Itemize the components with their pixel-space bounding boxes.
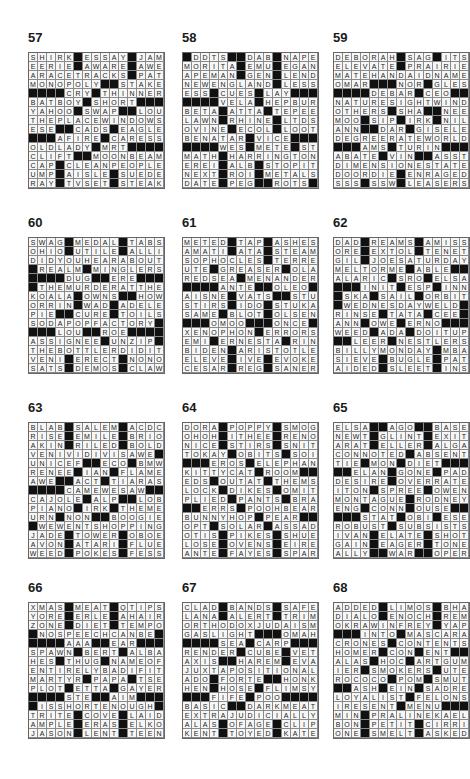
letter-cell: U	[74, 256, 83, 265]
letter-cell: O	[300, 283, 309, 292]
letter-cell: M	[442, 675, 451, 684]
letter-cell: U	[228, 477, 237, 486]
black-square	[282, 450, 291, 459]
letter-cell: L	[146, 125, 155, 134]
letter-cell: F	[65, 134, 74, 143]
letter-cell: A	[38, 161, 47, 170]
letter-cell: E	[237, 125, 246, 134]
letter-cell: A	[183, 247, 192, 256]
letter-cell: R	[361, 274, 370, 283]
letter-cell: A	[219, 283, 228, 292]
letter-cell: S	[424, 522, 433, 531]
letter-cell: O	[388, 666, 397, 675]
letter-cell: W	[370, 621, 379, 630]
letter-cell: E	[388, 319, 397, 328]
black-square	[334, 513, 343, 522]
letter-cell: E	[65, 71, 74, 80]
letter-cell: I	[155, 247, 164, 256]
letter-cell: I	[424, 513, 433, 522]
letter-cell: I	[237, 301, 246, 310]
letter-cell: T	[309, 161, 318, 170]
letter-cell: W	[201, 80, 210, 89]
letter-cell: O	[29, 301, 38, 310]
letter-cell: I	[38, 310, 47, 319]
letter-cell: A	[192, 152, 201, 161]
letter-cell: F	[155, 657, 164, 666]
letter-cell: O	[155, 621, 164, 630]
letter-cell: E	[334, 423, 343, 432]
black-square	[388, 107, 397, 116]
letter-cell: O	[334, 621, 343, 630]
letter-cell: O	[56, 107, 65, 116]
letter-cell: P	[246, 513, 255, 522]
letter-cell: N	[343, 729, 352, 738]
letter-cell: I	[246, 170, 255, 179]
letter-cell: E	[291, 247, 300, 256]
letter-cell: B	[83, 648, 92, 657]
letter-cell: A	[183, 292, 192, 301]
letter-cell: M	[92, 364, 101, 373]
letter-cell: N	[155, 729, 164, 738]
letter-cell: S	[155, 265, 164, 274]
letter-cell: C	[101, 71, 110, 80]
crossword-grid: DORAPOPPYSMOGOHOHITHEERENONICESTIRSSNITT…	[182, 422, 319, 559]
letter-cell: M	[183, 152, 192, 161]
letter-cell: S	[183, 256, 192, 265]
letter-cell: S	[460, 522, 469, 531]
letter-cell: B	[128, 256, 137, 265]
black-square	[119, 292, 128, 301]
black-square	[397, 319, 406, 328]
letter-cell: S	[29, 238, 38, 247]
letter-cell: T	[119, 621, 128, 630]
letter-cell: T	[433, 459, 442, 468]
letter-cell: E	[155, 125, 164, 134]
letter-cell: Y	[415, 301, 424, 310]
letter-cell: W	[424, 301, 433, 310]
letter-cell: E	[137, 179, 146, 188]
letter-cell: I	[451, 62, 460, 71]
black-square	[433, 346, 442, 355]
letter-cell: E	[415, 179, 424, 188]
letter-cell: R	[370, 53, 379, 62]
letter-cell: H	[237, 657, 246, 666]
letter-cell: N	[38, 666, 47, 675]
letter-cell: L	[65, 265, 74, 274]
letter-cell: A	[352, 441, 361, 450]
letter-cell: K	[29, 292, 38, 301]
letter-cell: E	[47, 310, 56, 319]
letter-cell: L	[343, 423, 352, 432]
crossword-puzzle-57: 57SHIRKESSAYJAMEERIEAWAREAWEARACETRACKSP…	[28, 30, 178, 46]
black-square	[370, 540, 379, 549]
black-square	[74, 301, 83, 310]
letter-cell: R	[228, 265, 237, 274]
letter-cell: E	[397, 495, 406, 504]
letter-cell: M	[155, 152, 164, 161]
letter-cell: W	[38, 477, 47, 486]
letter-cell: N	[379, 702, 388, 711]
black-square	[183, 53, 192, 62]
letter-cell: S	[460, 639, 469, 648]
letter-cell: D	[219, 238, 228, 247]
letter-cell: S	[291, 310, 300, 319]
letter-cell: E	[246, 337, 255, 346]
letter-cell: S	[370, 729, 379, 738]
letter-cell: S	[397, 256, 406, 265]
letter-cell: E	[74, 684, 83, 693]
letter-cell: E	[282, 134, 291, 143]
letter-cell: P	[128, 522, 137, 531]
letter-cell: E	[460, 107, 469, 116]
letter-cell: S	[361, 513, 370, 522]
black-square	[451, 319, 460, 328]
letter-cell: O	[406, 80, 415, 89]
letter-cell: E	[92, 134, 101, 143]
letter-cell: I	[119, 693, 128, 702]
letter-cell: W	[201, 116, 210, 125]
letter-cell: R	[83, 71, 92, 80]
letter-cell: I	[56, 337, 65, 346]
letter-cell: W	[101, 486, 110, 495]
letter-cell: Y	[47, 179, 56, 188]
letter-cell: R	[192, 161, 201, 170]
letter-cell: E	[246, 684, 255, 693]
letter-cell: E	[255, 675, 264, 684]
letter-cell: P	[65, 80, 74, 89]
